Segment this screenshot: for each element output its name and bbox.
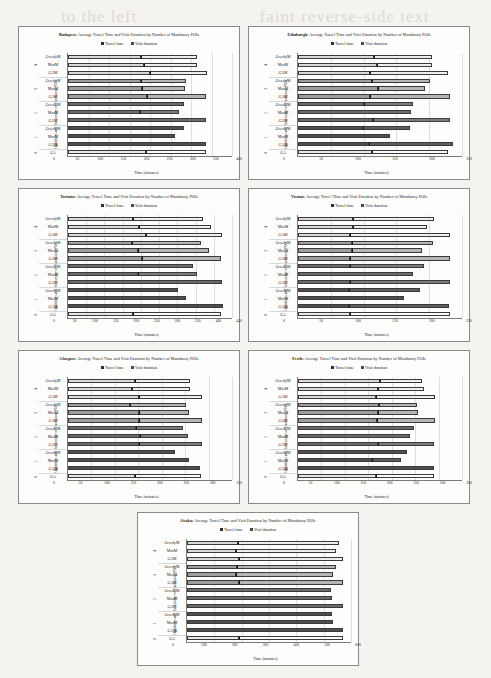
group-number: 3 <box>262 239 269 263</box>
bar-segment-visit-duration <box>139 418 201 422</box>
category-label: MaxM <box>269 457 297 465</box>
bar-segment-visit-duration <box>142 86 185 90</box>
category-label-column: GreedyMMaxMGAMGreedyMMaxMGAMGreedyMMaxMG… <box>39 377 68 481</box>
bar-segment-visit-duration <box>139 442 201 446</box>
x-axis-tick-label: 100 <box>92 319 98 323</box>
legend-swatch-icon <box>220 528 223 531</box>
legend-item-visit-duration: Visit duration <box>131 365 158 370</box>
bar-segment-visit-duration <box>236 549 335 553</box>
bar-segment-visit-duration <box>373 118 450 122</box>
bar-segment-visit-duration <box>141 55 197 59</box>
category-label: GreedyM <box>39 125 67 133</box>
bar-segment-travel-time <box>68 256 142 260</box>
bar-segment-visit-duration <box>239 557 343 561</box>
category-label: MaxM <box>39 133 67 141</box>
bar-segment-travel-time <box>298 63 377 67</box>
category-label: GAM <box>39 255 67 263</box>
bar <box>68 442 202 446</box>
bar-segment-travel-time <box>298 450 407 454</box>
category-label: GAM <box>269 231 297 239</box>
category-label: GAM <box>39 117 67 125</box>
group-number: 0 <box>151 635 158 643</box>
category-label: GreedyM <box>39 287 67 295</box>
legend-item-visit-duration: Visit duration <box>131 41 158 46</box>
bar-segment-travel-time <box>187 636 239 640</box>
category-label: GAM <box>158 579 186 587</box>
group-number: 2 <box>32 101 39 125</box>
x-axis-tick-label: 250 <box>466 319 472 323</box>
bar-segment-travel-time <box>68 434 140 438</box>
bar <box>298 55 432 59</box>
category-label: GAM <box>269 117 297 125</box>
bar-segment-travel-time <box>298 233 350 237</box>
bar-segment-travel-time <box>298 134 390 138</box>
category-label: GreedyM <box>269 377 297 385</box>
bar-segment-travel-time <box>298 225 353 229</box>
bars-area <box>297 53 462 157</box>
bar <box>298 387 424 391</box>
bar-segment-visit-duration <box>379 403 417 407</box>
plot-area: Algorithms and the number of Mandatory P… <box>249 213 469 341</box>
chart-title: Edinburgh: Average Travel Time and Visit… <box>249 32 469 38</box>
x-axis-tick-label: 100 <box>97 157 103 161</box>
category-label: GreedyM <box>158 539 186 547</box>
legend-label: Visit duration <box>365 41 387 46</box>
group-number: 3 <box>262 401 269 425</box>
plot-area: Algorithms and the number of Mandatory P… <box>19 213 239 341</box>
legend-swatch-icon <box>331 204 334 207</box>
gridline <box>462 53 463 156</box>
bar-segment-visit-duration <box>132 241 201 245</box>
bar <box>298 403 417 407</box>
bar <box>68 150 206 154</box>
x-axis-tick-label: 200 <box>429 319 435 323</box>
bar-segment-visit-duration <box>142 256 221 260</box>
bar <box>68 248 209 252</box>
x-axis-tick-label: 0 <box>53 157 55 161</box>
bar <box>298 241 433 245</box>
x-axis-tick-label: 200 <box>157 481 163 485</box>
legend-item-travel-time: Travel time <box>331 365 354 370</box>
bar <box>187 596 332 600</box>
bar-segment-visit-duration <box>146 233 222 237</box>
bar-segment-visit-duration <box>133 217 203 221</box>
group-number: 0 <box>262 149 269 157</box>
bar-segment-visit-duration <box>372 150 448 154</box>
bar <box>298 110 411 114</box>
category-label: MaxM <box>158 571 186 579</box>
bar-segment-visit-duration <box>380 379 423 383</box>
bar <box>298 395 435 399</box>
category-label: MaxM <box>269 61 297 69</box>
bar-segment-visit-duration <box>350 312 450 316</box>
category-label: MaxM <box>39 385 67 393</box>
bar-segment-travel-time <box>298 403 379 407</box>
plot-area: Algorithms and the number of Mandatory P… <box>249 375 469 503</box>
legend-label: Travel time <box>224 527 243 532</box>
legend-swatch-icon <box>101 366 104 369</box>
bar-segment-travel-time <box>298 387 378 391</box>
bar-segment-travel-time <box>298 272 413 276</box>
category-label: GAM <box>158 555 186 563</box>
x-axis: 050100150200250300350 <box>284 481 469 490</box>
bar <box>187 636 343 640</box>
category-label: GAM <box>39 69 67 77</box>
category-label: GA <box>269 473 297 481</box>
category-label: GAM <box>269 255 297 263</box>
bar <box>187 557 343 561</box>
chart-legend: Travel timeVisit duration <box>19 203 239 208</box>
bar-segment-travel-time <box>187 557 239 561</box>
bar <box>68 79 186 83</box>
legend-item-travel-time: Travel time <box>101 203 124 208</box>
bar-segment-visit-duration <box>353 225 426 229</box>
bar <box>68 110 179 114</box>
bar-segment-visit-duration <box>141 79 186 83</box>
bar-segment-travel-time <box>68 102 184 106</box>
x-axis: 0100200300400500600 <box>173 643 358 652</box>
bar-segment-visit-duration <box>139 410 190 414</box>
bar <box>298 418 435 422</box>
category-label: MaxM <box>269 133 297 141</box>
x-axis-tick-label: 200 <box>387 481 393 485</box>
group-number: 1 <box>262 287 269 311</box>
bar-segment-travel-time <box>68 233 146 237</box>
chart-panel-budapest: Budapest: Average Travel Time and Visit … <box>18 26 240 180</box>
group-number: 4 <box>32 215 39 239</box>
